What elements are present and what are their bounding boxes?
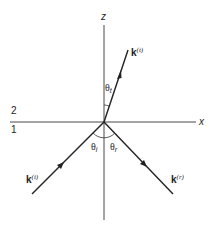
theta-i-label: θi [91, 142, 97, 153]
reflected-vector-label: k(r) [171, 174, 184, 185]
medium-2-label: 2 [11, 106, 17, 116]
z-axis-label: z [101, 12, 106, 22]
incident-ray [32, 122, 104, 194]
theta-t-label: θt [105, 83, 112, 94]
transmitted-vector-label: k(t) [131, 47, 143, 58]
transmitted-angle-arc [104, 105, 109, 106]
incident-vector-label: k(i) [26, 174, 38, 185]
theta-r-label: θr [110, 142, 117, 153]
x-axis-label: x [199, 117, 204, 127]
transmitted-arrow-icon [117, 70, 122, 79]
diagram-canvas [0, 0, 214, 230]
medium-1-label: 1 [11, 125, 17, 135]
reflected-ray [104, 122, 173, 194]
